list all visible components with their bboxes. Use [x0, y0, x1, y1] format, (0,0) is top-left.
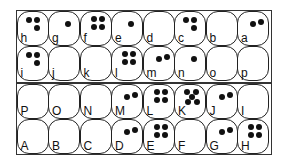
pit-label: j	[52, 67, 55, 79]
pit-k[interactable]: k	[80, 46, 112, 81]
pit-label: I	[241, 105, 244, 117]
pit-label: E	[147, 140, 155, 152]
pit-K[interactable]: K	[174, 84, 206, 119]
pit-label: k	[84, 67, 90, 79]
seed-dot	[154, 124, 160, 130]
pit-label: c	[178, 32, 184, 44]
seed-dot	[154, 89, 160, 95]
seed-dot	[156, 56, 162, 62]
pit-N[interactable]: N	[80, 84, 112, 119]
row-1: h g f e d c b a	[17, 11, 271, 46]
seed-dot	[26, 52, 32, 58]
pit-l[interactable]: l	[111, 46, 143, 81]
seed-dot	[26, 17, 32, 23]
pit-d[interactable]: d	[143, 11, 175, 46]
seed-dot	[162, 89, 168, 95]
row-3: P O N M L K J I	[17, 84, 271, 119]
seed-dot	[248, 132, 254, 138]
pit-b[interactable]: b	[206, 11, 238, 46]
seed-dot	[132, 92, 138, 98]
pit-m[interactable]: m	[143, 46, 175, 81]
pit-F[interactable]: F	[174, 119, 206, 154]
pit-label: f	[84, 32, 87, 44]
pit-label: O	[52, 105, 61, 117]
seed-dot	[250, 21, 256, 27]
seed-dot	[219, 94, 225, 100]
seed-dot	[91, 16, 97, 22]
pit-label: i	[21, 67, 24, 79]
pit-L[interactable]: L	[143, 84, 175, 119]
pit-label: J	[210, 105, 216, 117]
pit-label: m	[147, 67, 157, 79]
pit-c[interactable]: c	[174, 11, 206, 46]
pit-O[interactable]: O	[48, 84, 80, 119]
pit-label: A	[21, 140, 29, 152]
seed-dot	[194, 99, 200, 105]
pit-label: H	[241, 140, 250, 152]
top-half-player-lowercase: h g f e d c b a i j k l m n o p	[17, 11, 271, 82]
seed-dot	[34, 52, 40, 58]
seed-dot	[248, 124, 254, 130]
seed-dot	[227, 92, 233, 98]
pit-label: a	[241, 32, 248, 44]
seed-dot	[130, 59, 136, 65]
seed-dot	[227, 127, 233, 133]
seed-dot	[91, 24, 97, 30]
pit-A[interactable]: A	[17, 119, 49, 154]
pit-label: M	[115, 105, 125, 117]
seed-dot	[124, 94, 130, 100]
pit-label: G	[210, 140, 219, 152]
pit-label: K	[178, 105, 186, 117]
seed-dot	[132, 127, 138, 133]
pit-M[interactable]: M	[111, 84, 143, 119]
seed-dot	[258, 19, 264, 25]
pit-label: o	[210, 67, 217, 79]
pit-j[interactable]: j	[48, 46, 80, 81]
pit-f[interactable]: f	[80, 11, 112, 46]
pit-label: N	[84, 105, 93, 117]
pit-G[interactable]: G	[206, 119, 238, 154]
pit-B[interactable]: B	[48, 119, 80, 154]
pit-label: l	[115, 67, 118, 79]
seed-dot	[162, 132, 168, 138]
pit-h[interactable]: h	[17, 11, 49, 46]
seed-dot	[191, 25, 197, 31]
pit-i[interactable]: i	[17, 46, 49, 81]
seed-dot	[34, 17, 40, 23]
pit-H[interactable]: H	[237, 119, 269, 154]
seed-dot	[99, 16, 105, 22]
pit-e[interactable]: e	[111, 11, 143, 46]
pit-label: D	[115, 140, 124, 152]
pit-a[interactable]: a	[237, 11, 269, 46]
seed-dot	[162, 124, 168, 130]
seed-dot	[34, 60, 40, 66]
pit-label: g	[52, 32, 59, 44]
pit-J[interactable]: J	[206, 84, 238, 119]
pit-E[interactable]: E	[143, 119, 175, 154]
seed-dot	[122, 59, 128, 65]
seed-dot	[99, 24, 105, 30]
pit-p[interactable]: p	[237, 46, 269, 81]
pit-D[interactable]: D	[111, 119, 143, 154]
seed-dot	[191, 17, 197, 23]
seed-dot	[191, 56, 197, 62]
pit-C[interactable]: C	[80, 119, 112, 154]
seed-dot	[164, 54, 170, 60]
seed-dot	[154, 132, 160, 138]
pit-label: e	[115, 32, 122, 44]
seed-dot	[162, 97, 168, 103]
seed-dot	[65, 21, 71, 27]
pit-label: n	[178, 67, 185, 79]
pit-I[interactable]: I	[237, 84, 269, 119]
pit-o[interactable]: o	[206, 46, 238, 81]
pit-label: F	[178, 140, 185, 152]
pit-label: B	[52, 140, 60, 152]
pit-P[interactable]: P	[17, 84, 49, 119]
game-board: h g f e d c b a i j k l m n o p P O N M …	[16, 10, 272, 155]
row-2: i j k l m n o p	[17, 46, 271, 81]
pit-label: b	[210, 32, 217, 44]
pit-n[interactable]: n	[174, 46, 206, 81]
seed-dot	[130, 51, 136, 57]
pit-g[interactable]: g	[48, 11, 80, 46]
pit-label: P	[21, 105, 29, 117]
